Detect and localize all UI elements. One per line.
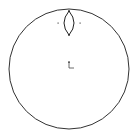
sketch-points	[58, 10, 81, 36]
outer-circle[interactable]	[9, 9, 129, 129]
sketch-svg	[0, 0, 139, 139]
sketch-point[interactable]	[80, 23, 81, 24]
origin-axes-icon	[68, 61, 74, 68]
lens-shape[interactable]	[64, 11, 74, 35]
sketch-point[interactable]	[58, 23, 59, 24]
lens-endpoint[interactable]	[68, 34, 70, 36]
sketch-canvas[interactable]	[0, 0, 139, 139]
lens-endpoint[interactable]	[68, 10, 70, 12]
